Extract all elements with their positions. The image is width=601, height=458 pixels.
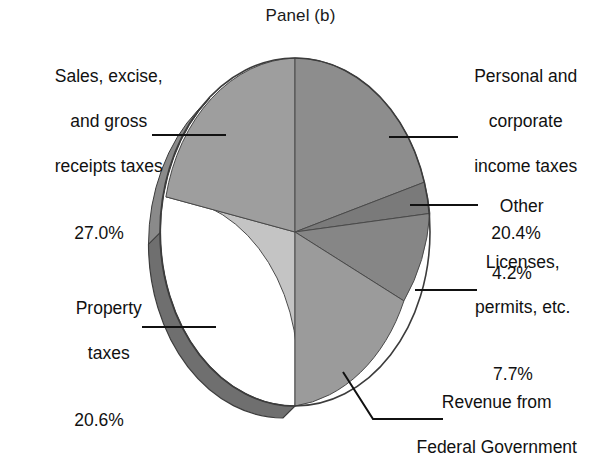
slice-label-revenue-from-federal-government: Revenue from Federal Government 20.1% — [378, 368, 596, 458]
pie-chart-figure: Panel (b) — [0, 0, 601, 458]
pie-slices — [166, 58, 430, 406]
slice-label-line2: Federal Government — [416, 437, 577, 457]
slice-label-line1: Revenue from — [442, 392, 552, 412]
slice-percent-sales: 27.0% — [8, 222, 190, 245]
slice-label-line2: permits, etc. — [475, 297, 570, 317]
slice-label-line1: Sales, excise, — [55, 66, 163, 86]
slice-label-line2: taxes — [88, 343, 130, 363]
slice-label-line1: Property — [76, 298, 142, 318]
slice-label-line1: Other — [500, 196, 544, 216]
slice-label-sales-excise-gross-receipts-taxes: Sales, excise, and gross receipts taxes … — [8, 42, 190, 290]
slice-label-property-taxes: Property taxes 20.6% — [8, 274, 190, 458]
slice-label-line2: corporate — [489, 111, 563, 131]
slice-label-line2: and gross — [70, 111, 147, 131]
slice-percent-property: 20.6% — [8, 409, 190, 432]
slice-label-line3: receipts taxes — [55, 156, 163, 176]
slice-label-line1: Personal and — [474, 66, 577, 86]
slice-label-line1: Licenses, — [486, 252, 560, 272]
